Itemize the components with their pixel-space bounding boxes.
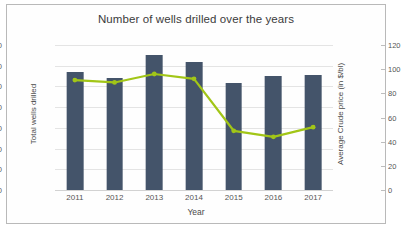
bar-2013: [146, 55, 163, 190]
bar-2011: [67, 72, 84, 190]
y-tick-label: 700: [0, 41, 2, 50]
chart-title: Number of wells drilled over the years: [7, 13, 385, 25]
y-axis-label: Total wells drilled: [29, 84, 38, 144]
x-axis-label: Year: [7, 207, 385, 217]
y-tick-label: 0: [0, 186, 2, 195]
y2-tickmark: [381, 93, 385, 94]
y2-tick-label: 80: [388, 89, 405, 98]
plot-area: 0100200300400500600700 020406080100120: [55, 45, 333, 190]
chart-card: Number of wells drilled over the years 0…: [6, 4, 386, 224]
y2-tickmark: [381, 45, 385, 46]
x-tick-label-2011: 2011: [66, 193, 83, 202]
gridline: [55, 45, 333, 46]
y-tick-label: 500: [0, 82, 2, 91]
y2-tick-label: 40: [388, 137, 405, 146]
bar-2016: [265, 76, 282, 190]
y2-tick-label: 0: [388, 186, 405, 195]
y-tick-label: 100: [0, 165, 2, 174]
x-tick-label-2012: 2012: [106, 193, 124, 202]
y2-tickmark: [381, 166, 385, 167]
y2-tick-label: 120: [388, 41, 405, 50]
y2-tick-label: 60: [388, 113, 405, 122]
y2-tickmark: [381, 69, 385, 70]
y2-tickmark: [381, 118, 385, 119]
y2-tick-label: 20: [388, 161, 405, 170]
gridline: [55, 190, 333, 191]
y-tick-label: 300: [0, 123, 2, 132]
bar-2012: [106, 78, 123, 190]
bar-2014: [186, 62, 203, 190]
x-tick-label-2014: 2014: [185, 193, 203, 202]
x-tick-label-2013: 2013: [145, 193, 163, 202]
bar-2015: [225, 83, 242, 190]
y2-axis-label: Average Crude price (in $/bl): [335, 63, 344, 165]
y2-tickmark: [381, 142, 385, 143]
y-tick-label: 200: [0, 144, 2, 153]
x-tick-label-2015: 2015: [225, 193, 243, 202]
y-tick-label: 400: [0, 103, 2, 112]
y-tick-label: 600: [0, 61, 2, 70]
y2-tick-label: 100: [388, 65, 405, 74]
x-tick-label-2016: 2016: [265, 193, 283, 202]
x-tick-label-2017: 2017: [304, 193, 322, 202]
y2-tickmark: [381, 190, 385, 191]
bar-2017: [305, 75, 322, 190]
